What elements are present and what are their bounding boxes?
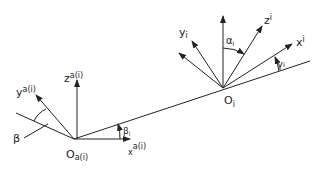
z-i-label: zi	[264, 13, 272, 27]
coordinate-frames-diagram: Oa(i) Oi xa(i) za(i) ya(i) β βi zi xi yi…	[0, 0, 321, 171]
beta-i-arc	[118, 124, 120, 139]
z-a-label: za(i)	[64, 71, 83, 85]
x-i-label: xi	[296, 35, 305, 49]
origin-local-label: Oi	[224, 94, 235, 109]
beta-i-label: βi	[123, 126, 131, 137]
y-i-reference-axis	[179, 53, 223, 88]
y-i-label: yi	[179, 26, 188, 40]
y-i-axis	[192, 41, 223, 88]
beta-label: β	[13, 132, 20, 145]
origin-base-label: Oa(i)	[66, 148, 88, 162]
x-a-label: xa(i)	[128, 142, 146, 157]
beta-leader	[24, 124, 48, 138]
link-line	[74, 61, 310, 139]
gamma-label: γi	[277, 59, 285, 70]
alpha-arc	[223, 48, 244, 54]
y-a-axis	[36, 95, 74, 139]
beta-arc	[34, 109, 46, 121]
alpha-label: αi	[226, 35, 235, 48]
y-a-label: ya(i)	[16, 85, 36, 99]
